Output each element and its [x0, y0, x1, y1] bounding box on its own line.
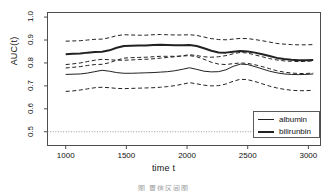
plot-canvas	[0, 0, 327, 191]
chart-figure: AUC(t) time t 0.50.60.70.80.91.0 1000150…	[0, 0, 327, 191]
legend-item-bilirunbin[interactable]: bilirunbin	[254, 126, 319, 137]
y-tick-label: 0.5	[26, 118, 35, 144]
x-tick-label: 2000	[167, 151, 207, 160]
legend-label: albumin	[279, 114, 307, 125]
legend-label: bilirunbin	[279, 126, 311, 137]
y-tick-label: 0.8	[26, 49, 35, 75]
y-tick-label: 1.0	[26, 4, 35, 30]
y-tick-label: 0.7	[26, 72, 35, 98]
legend-line-icon	[258, 119, 274, 120]
y-tick-label: 0.6	[26, 95, 35, 121]
x-tick-label: 2500	[228, 151, 268, 160]
legend[interactable]: albuminbilirunbin	[253, 111, 320, 138]
figure-caption: 图 置信区间图	[0, 183, 327, 191]
x-tick-label: 1500	[106, 151, 146, 160]
legend-line-icon	[258, 131, 274, 133]
x-tick-label: 3000	[288, 151, 327, 160]
x-tick-label: 1000	[46, 151, 86, 160]
y-tick-label: 0.9	[26, 27, 35, 53]
legend-item-albumin[interactable]: albumin	[254, 114, 319, 125]
